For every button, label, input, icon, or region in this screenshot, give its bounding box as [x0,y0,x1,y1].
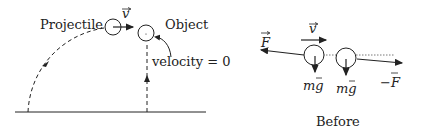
force-arrow [261,50,304,55]
vertical-path-arrowhead-icon [144,75,150,82]
object-center-dot [145,33,146,34]
before-caption: Before [316,114,360,129]
body-circle-1 [304,45,324,65]
gravity-label-1: mg [303,78,324,93]
velocity-zero-label: velocity = 0 [151,54,230,69]
left-panel: Projectile v Object velocity = 0 [15,6,230,112]
projectile-trajectory [28,28,104,112]
right-panel: F v mg mg −F Before [260,21,402,129]
trajectory-arrowhead-icon [42,61,49,67]
force-label: F [260,35,271,50]
projectile-label: Projectile [40,17,103,32]
physics-diagram: Projectile v Object velocity = 0 F v mg … [0,0,423,139]
neg-force-arrow [357,59,402,63]
object-label: Object [165,17,209,32]
gravity-label-2: mg [336,81,357,96]
neg-force-label: −F [380,75,401,90]
object-circle [138,25,154,41]
